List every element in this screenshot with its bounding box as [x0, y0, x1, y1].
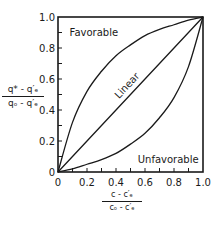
y-axis-label-numerator: q* - q′ₑ [2, 84, 44, 97]
x-tick-label: 0.4 [108, 177, 124, 188]
y-tick-label: 0.8 [39, 43, 55, 54]
curve-linear [58, 17, 203, 172]
curve-labels: FavorableLinearUnfavorable [70, 27, 199, 165]
x-tick-label: 0.6 [137, 177, 153, 188]
label-favorable: Favorable [70, 27, 119, 38]
x-axis-label: c - c′ₑ cₒ - c′ₑ [102, 190, 142, 213]
y-tick-label: 0.2 [39, 136, 55, 147]
x-tick-label: 0.8 [166, 177, 182, 188]
x-axis-label-numerator: c - c′ₑ [102, 190, 142, 202]
x-axis-label-denominator: cₒ - c′ₑ [102, 202, 142, 213]
x-tick-label: 0 [55, 177, 61, 188]
x-tick-label: 1.0 [195, 177, 211, 188]
label-unfavorable: Unfavorable [138, 154, 199, 165]
label-linear: Linear [112, 70, 142, 101]
y-axis-label-denominator: qₒ - q′ₑ [2, 97, 44, 109]
curves [58, 17, 203, 172]
y-tick-label: 1.0 [39, 12, 55, 23]
y-axis-label: q* - q′ₑ qₒ - q′ₑ [2, 84, 44, 109]
x-tick-label: 0.2 [79, 177, 95, 188]
